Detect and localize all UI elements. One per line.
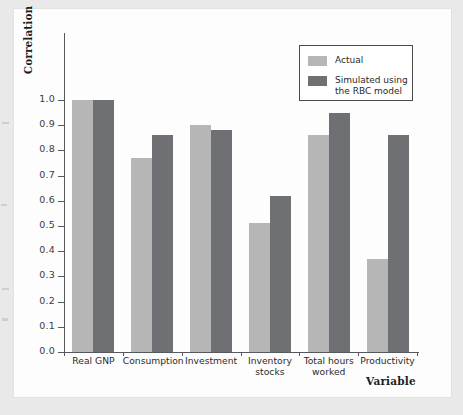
y-axis-tick-label: 0.5 — [39, 219, 55, 230]
y-axis-tick-label: 0.4 — [39, 244, 55, 255]
y-axis-tick-label: 0.9 — [39, 118, 55, 129]
correlation-bar-chart: Correlation 0.00.10.20.30.40.50.60.70.80… — [0, 0, 463, 415]
x-axis-line — [64, 352, 419, 353]
y-axis-tick-label: 0.1 — [39, 320, 55, 331]
y-axis-tick-label: 0.0 — [39, 345, 55, 356]
x-axis-tick — [64, 352, 65, 356]
bar-simulated — [270, 196, 291, 352]
x-axis-category-label: Investment — [182, 356, 241, 367]
x-axis-tick — [417, 352, 418, 356]
bar-actual — [131, 158, 152, 352]
bar-simulated — [152, 135, 173, 352]
bar-actual — [249, 223, 270, 352]
bar-actual — [72, 100, 93, 352]
y-axis-tick-label: 1.0 — [39, 93, 55, 104]
bar-simulated — [211, 130, 232, 352]
legend-item-simulated: Simulated using the RBC model — [308, 75, 408, 96]
y-axis-title: Correlation — [22, 0, 34, 80]
x-axis-category-label: Real GNP — [64, 356, 123, 367]
bar-simulated — [93, 100, 114, 352]
bar-simulated — [329, 113, 350, 352]
chart-legend: Actual Simulated using the RBC model — [299, 45, 413, 101]
legend-label-actual: Actual — [335, 55, 363, 66]
x-axis-category-label: Productivity — [358, 356, 417, 367]
x-axis-category-label: Total hours worked — [299, 356, 358, 377]
y-axis-tick-label: 0.2 — [39, 295, 55, 306]
bar-simulated — [388, 135, 409, 352]
x-axis-category-label: Inventory stocks — [241, 356, 300, 377]
legend-label-simulated: Simulated using the RBC model — [335, 75, 408, 96]
y-axis-tick-label: 0.6 — [39, 194, 55, 205]
x-axis-title: Variable — [366, 375, 416, 387]
bar-actual — [367, 259, 388, 352]
legend-swatch-simulated-icon — [308, 76, 327, 86]
legend-swatch-actual-icon — [308, 56, 327, 66]
y-axis-tick-label: 0.3 — [39, 269, 55, 280]
legend-item-actual: Actual — [308, 55, 363, 66]
bar-actual — [190, 125, 211, 352]
bar-actual — [308, 135, 329, 352]
y-axis-tick-label: 0.7 — [39, 169, 55, 180]
y-axis-tick-label: 0.8 — [39, 143, 55, 154]
x-axis-category-label: Consumption — [123, 356, 182, 367]
page-root: Correlation 0.00.10.20.30.40.50.60.70.80… — [0, 0, 463, 415]
